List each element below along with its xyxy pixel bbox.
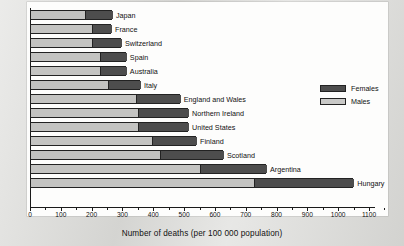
x-tick-label: 1100	[362, 211, 376, 218]
stacked-bar-finland	[30, 136, 196, 146]
x-tick-label: 500	[179, 211, 190, 218]
legend-swatch-females-icon	[320, 85, 346, 93]
bar-row	[30, 176, 353, 190]
x-tick-minor	[323, 208, 324, 210]
bar-segment-males	[31, 67, 101, 75]
x-tick-minor	[292, 208, 293, 210]
bar-row	[30, 134, 196, 148]
bar-segment-females	[153, 137, 197, 145]
x-tick-label: 200	[86, 211, 97, 218]
x-tick-label: 900	[302, 211, 313, 218]
bar-category-label: Switzerland	[125, 38, 162, 49]
chart-figure: 010020030040050060070080090010001100 Fem…	[27, 2, 388, 216]
stacked-bar-hungary	[30, 178, 353, 188]
stacked-bar-england-and-wales	[30, 94, 180, 104]
bar-row	[30, 64, 126, 78]
stacked-bar-australia	[30, 66, 126, 76]
x-tick-minor	[384, 208, 385, 210]
bar-segment-females	[137, 95, 181, 103]
bar-segment-males	[31, 53, 101, 61]
x-tick-minor	[76, 208, 77, 210]
bar-segment-males	[31, 109, 139, 117]
bar-segment-females	[201, 165, 267, 173]
bar-segment-males	[31, 137, 153, 145]
bar-category-label: Argentina	[270, 164, 301, 175]
stacked-bar-japan	[30, 10, 112, 20]
x-tick-label: 700	[240, 211, 251, 218]
bar-segment-females	[93, 25, 112, 33]
x-tick-label: 600	[209, 211, 220, 218]
x-tick-minor	[169, 208, 170, 210]
bar-category-label: Italy	[144, 80, 157, 91]
bar-segment-females	[255, 179, 354, 187]
bar-category-label: Hungary	[357, 178, 384, 189]
x-axis-title: Number of deaths (per 100 000 population…	[0, 229, 404, 238]
stacked-bar-switzerland	[30, 38, 121, 48]
bar-segment-females	[109, 81, 141, 89]
bar-row	[30, 92, 180, 106]
bar-row	[30, 106, 188, 120]
legend-swatch-males-icon	[320, 98, 346, 106]
bar-row	[30, 8, 112, 22]
stacked-bar-united-states	[30, 122, 188, 132]
bar-segment-females	[139, 123, 189, 131]
bar-row	[30, 22, 111, 36]
bar-category-label: Japan	[116, 10, 136, 21]
bar-segment-females	[101, 53, 127, 61]
bar-segment-males	[31, 95, 137, 103]
bar-segment-females	[101, 67, 127, 75]
stacked-bar-argentina	[30, 164, 266, 174]
x-tick-label: 0	[28, 211, 32, 218]
bar-category-label: France	[115, 24, 137, 35]
x-tick-minor	[45, 208, 46, 210]
x-tick-minor	[200, 208, 201, 210]
legend-item-males: Males	[320, 96, 379, 107]
bar-category-label: United States	[192, 122, 235, 133]
x-tick-minor	[107, 208, 108, 210]
bar-row	[30, 120, 188, 134]
bar-row	[30, 148, 223, 162]
x-tick-minor	[138, 208, 139, 210]
x-tick-minor	[230, 208, 231, 210]
x-tick-label: 400	[148, 211, 159, 218]
bar-segment-females	[139, 109, 189, 117]
chart-legend: Females Males	[320, 83, 379, 109]
bar-segment-females	[161, 151, 224, 159]
bar-row	[30, 162, 266, 176]
legend-label-males: Males	[351, 97, 370, 106]
legend-item-females: Females	[320, 83, 379, 94]
bar-segment-males	[31, 151, 161, 159]
x-tick-label: 100	[55, 211, 66, 218]
bar-segment-females	[86, 11, 113, 19]
bar-category-label: Northern Ireland	[192, 108, 244, 119]
bar-segment-males	[31, 165, 201, 173]
x-tick-minor	[261, 208, 262, 210]
x-tick-minor	[354, 208, 355, 210]
bar-segment-males	[31, 123, 139, 131]
bar-category-label: Scotland	[227, 150, 255, 161]
bar-category-label: Finland	[200, 136, 224, 147]
stacked-bar-france	[30, 24, 111, 34]
bar-segment-males	[31, 25, 93, 33]
bar-category-label: Spain	[130, 52, 148, 63]
x-tick-label: 300	[117, 211, 128, 218]
bar-row	[30, 50, 126, 64]
legend-label-females: Females	[351, 84, 379, 93]
bar-row	[30, 78, 140, 92]
stacked-bar-northern-ireland	[30, 108, 188, 118]
bar-category-label: England and Wales	[184, 94, 246, 105]
bar-segment-females	[93, 39, 122, 47]
bar-segment-males	[31, 81, 109, 89]
bar-segment-males	[31, 179, 255, 187]
x-tick-label: 800	[271, 211, 282, 218]
bar-segment-males	[31, 11, 86, 19]
stacked-bar-scotland	[30, 150, 223, 160]
bar-segment-males	[31, 39, 93, 47]
bar-category-label: Australia	[130, 66, 158, 77]
stacked-bar-italy	[30, 80, 140, 90]
bar-row	[30, 36, 121, 50]
x-tick-label: 1000	[331, 211, 346, 218]
stacked-bar-spain	[30, 52, 126, 62]
